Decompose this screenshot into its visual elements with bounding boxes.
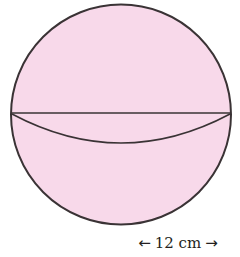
arrow-left-icon: ←: [138, 236, 151, 251]
arrow-right-icon: →: [205, 236, 218, 251]
sphere-diagram: [0, 0, 240, 257]
radius-dimension-label: ← 12 cm →: [120, 233, 236, 253]
dimension-text: 12 cm: [155, 234, 201, 252]
sphere-outline: [11, 5, 231, 225]
